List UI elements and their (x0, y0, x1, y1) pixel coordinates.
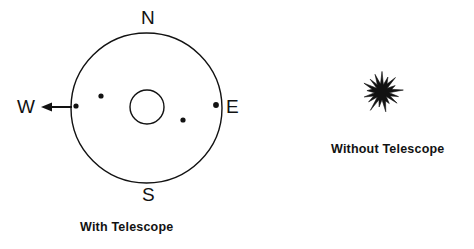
star-points-group (73, 93, 219, 122)
telescope-field-circle (71, 33, 222, 183)
caption-with-telescope: With Telescope (80, 221, 173, 234)
west-arrow-head (41, 102, 52, 111)
telescope-inner-circle (130, 90, 164, 124)
compass-label-south: S (142, 185, 155, 204)
starburst-icon (364, 71, 403, 111)
west-direction-arrow (41, 102, 72, 111)
star-northwest (98, 93, 103, 98)
compass-label-north: N (141, 8, 155, 27)
diagram-canvas (0, 0, 474, 249)
compass-label-east: E (226, 97, 239, 116)
compass-label-west: W (17, 97, 35, 116)
star-west-edge (73, 103, 78, 108)
figure-root: N S E W With Telescope Without Telescope (0, 0, 474, 249)
panel-with-telescope (41, 33, 222, 183)
panel-without-telescope (364, 71, 403, 111)
caption-without-telescope: Without Telescope (331, 143, 444, 156)
star-east-edge (213, 102, 219, 108)
star-southeast (180, 117, 185, 122)
